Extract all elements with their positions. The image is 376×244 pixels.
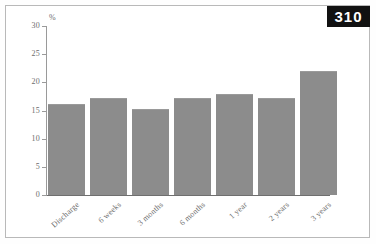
- y-axis-tick-mark: [42, 82, 47, 83]
- y-axis-tick-mark: [42, 54, 47, 55]
- bar: [300, 71, 337, 195]
- page-number-badge: 310: [327, 6, 370, 27]
- x-axis-tick-label: 1 year: [204, 200, 249, 241]
- x-axis-tick-label: 2 years: [246, 200, 291, 241]
- bar: [90, 98, 127, 195]
- x-axis-tick-label: 3 years: [288, 200, 333, 241]
- y-axis-tick-label: 0: [20, 190, 40, 199]
- y-axis-tick-label: 10: [20, 134, 40, 143]
- y-axis-tick-label: 5: [20, 162, 40, 171]
- y-axis-tick-mark: [42, 139, 47, 140]
- bar: [258, 98, 295, 195]
- y-axis-tick-label: 30: [20, 21, 40, 30]
- x-axis-tick-label: 6 weeks: [78, 200, 123, 241]
- x-axis-line: [46, 195, 330, 196]
- y-axis-tick-mark: [42, 26, 47, 27]
- y-axis-tick-label: 20: [20, 77, 40, 86]
- x-axis-tick-label: Discharge: [36, 200, 81, 241]
- y-axis-unit-label: %: [49, 13, 56, 22]
- y-axis-tick-mark: [42, 167, 47, 168]
- figure-container: 310 % 051015202530 Discharge6 weeks3 mon…: [0, 0, 376, 244]
- y-axis-tick-label: 15: [20, 106, 40, 115]
- y-axis-tick-label: 25: [20, 49, 40, 58]
- y-axis-tick-mark: [42, 111, 47, 112]
- y-axis-tick-mark: [42, 195, 47, 196]
- bar: [48, 104, 85, 195]
- bar: [216, 94, 253, 195]
- bar: [174, 98, 211, 195]
- x-axis-tick-label: 6 months: [162, 200, 207, 241]
- bar-chart-plot: % 051015202530 Discharge6 weeks3 months6…: [0, 0, 376, 244]
- x-axis-tick-label: 3 months: [120, 200, 165, 241]
- bar: [132, 109, 169, 195]
